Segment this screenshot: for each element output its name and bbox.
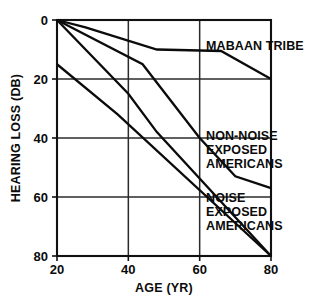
x-tick-label: 60 [192,262,206,277]
y-tick-labels: 020406080 [34,13,48,264]
y-axis-title: HEARING LOSS (DB) [9,74,23,202]
chart-canvas: 20406080 020406080 AGE (YR) HEARING LOSS… [0,0,328,304]
annotation-noise: EXPOSED [206,205,267,219]
y-tick-label: 40 [34,131,48,146]
x-tick-label: 20 [50,262,64,277]
y-tick-label: 0 [41,13,48,28]
annotation-mabaan: MABAAN TRIBE [206,39,304,53]
x-tick-label: 80 [264,262,278,277]
annotation-non-noise: NON-NOISE [206,129,278,143]
x-tick-label: 40 [121,262,135,277]
x-axis-title: AGE (YR) [135,281,193,295]
annotation-noise: NOISE [206,191,245,205]
annotation-non-noise: EXPOSED [206,143,267,157]
y-tick-label: 60 [34,190,48,205]
x-tick-labels: 20406080 [50,262,278,277]
annotation-non-noise: AMERICANS [206,157,283,171]
annotation-noise: AMERICANS [206,219,283,233]
hearing-loss-chart: 20406080 020406080 AGE (YR) HEARING LOSS… [0,0,328,304]
y-tick-label: 20 [34,72,48,87]
y-tick-label: 80 [34,249,48,264]
